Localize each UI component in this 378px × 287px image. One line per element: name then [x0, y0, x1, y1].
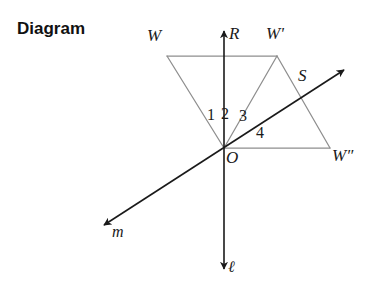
point-label-W-double-prime: W″: [332, 147, 353, 164]
angle-label-2: 2: [221, 106, 229, 122]
segment-W-O: [167, 56, 224, 148]
point-label-R: R: [229, 25, 239, 42]
axis-lines: [104, 31, 344, 269]
angle-label-3: 3: [239, 108, 247, 124]
segment-Wp-O: [224, 56, 277, 148]
diagram-canvas: Diagram W W' W″ O R S ℓ m 1 2 3 4: [0, 0, 378, 287]
line-label-l: ℓ: [228, 259, 235, 275]
point-label-S: S: [298, 67, 307, 84]
point-label-O: O: [226, 149, 238, 166]
angle-label-4: 4: [256, 125, 264, 141]
line-label-m: m: [112, 224, 124, 240]
point-label-W-prime: W': [266, 25, 284, 42]
geometry-figure: [0, 0, 378, 287]
point-label-W: W: [147, 27, 161, 44]
angle-label-1: 1: [207, 107, 215, 123]
